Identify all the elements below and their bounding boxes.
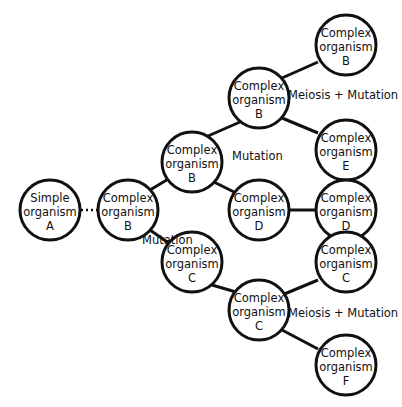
svg-text:Complex: Complex (234, 79, 285, 93)
svg-text:Complex: Complex (234, 291, 285, 305)
node-complex-organism-b4: Complex organism B (316, 15, 376, 75)
svg-text:organism: organism (319, 360, 373, 374)
svg-text:Complex: Complex (103, 191, 154, 205)
svg-text:C: C (255, 319, 263, 333)
node-complex-organism-e: Complex organism E (316, 120, 376, 180)
svg-text:B: B (124, 219, 132, 233)
label-mutation-lower: Mutation (142, 233, 193, 247)
node-complex-organism-b1: Complex organism B (98, 180, 158, 240)
svg-text:Complex: Complex (167, 143, 218, 157)
svg-text:organism: organism (165, 157, 219, 171)
svg-text:Simple: Simple (30, 191, 69, 205)
svg-text:Complex: Complex (234, 191, 285, 205)
node-complex-organism-d1: Complex organism D (229, 180, 289, 240)
svg-text:C: C (342, 271, 350, 285)
svg-text:Complex: Complex (321, 26, 372, 40)
label-meiosis-mutation-upper: Meiosis + Mutation (288, 88, 398, 102)
svg-text:F: F (343, 374, 350, 388)
svg-text:E: E (342, 159, 349, 173)
node-complex-organism-c2: Complex organism C (229, 280, 289, 340)
svg-text:B: B (188, 171, 196, 185)
label-meiosis-mutation-lower: Meiosis + Mutation (288, 306, 398, 320)
svg-text:Complex: Complex (321, 131, 372, 145)
svg-text:Complex: Complex (321, 191, 372, 205)
svg-text:organism: organism (101, 205, 155, 219)
svg-text:A: A (46, 219, 54, 233)
svg-text:D: D (255, 219, 264, 233)
svg-text:organism: organism (232, 93, 286, 107)
evolution-tree-diagram: Simple organism A Complex organism B Com… (0, 0, 402, 407)
svg-text:organism: organism (23, 205, 77, 219)
node-simple-organism-a: Simple organism A (20, 180, 80, 240)
label-mutation-upper: Mutation (232, 149, 283, 163)
svg-text:organism: organism (165, 257, 219, 271)
svg-text:organism: organism (319, 40, 373, 54)
svg-text:C: C (188, 271, 196, 285)
svg-text:B: B (255, 107, 263, 121)
svg-text:organism: organism (319, 145, 373, 159)
edge-B2-D1 (214, 182, 236, 193)
edge-B2-B3 (208, 122, 240, 136)
edge-B3-E (282, 118, 318, 133)
svg-text:organism: organism (232, 205, 286, 219)
svg-text:organism: organism (319, 205, 373, 219)
edge-B3-B4 (282, 62, 318, 78)
svg-text:B: B (342, 54, 350, 68)
svg-text:organism: organism (319, 257, 373, 271)
node-complex-organism-f: Complex organism F (316, 335, 376, 395)
svg-text:Complex: Complex (321, 243, 372, 257)
svg-text:Complex: Complex (321, 346, 372, 360)
node-complex-organism-b2: Complex organism B (162, 132, 222, 192)
edge-C2-F (282, 330, 318, 349)
node-complex-organism-c3: Complex organism C (316, 232, 376, 292)
edge-C1-C2 (212, 285, 236, 292)
node-complex-organism-b3: Complex organism B (229, 68, 289, 128)
edge-C2-C3 (282, 280, 318, 295)
svg-text:organism: organism (232, 305, 286, 319)
